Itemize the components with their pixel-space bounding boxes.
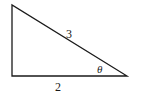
angle-label: θ: [97, 63, 103, 75]
triangle-diagram: 3 θ 2: [0, 0, 141, 99]
base-label: 2: [55, 80, 61, 94]
hypotenuse-label: 3: [66, 27, 72, 41]
